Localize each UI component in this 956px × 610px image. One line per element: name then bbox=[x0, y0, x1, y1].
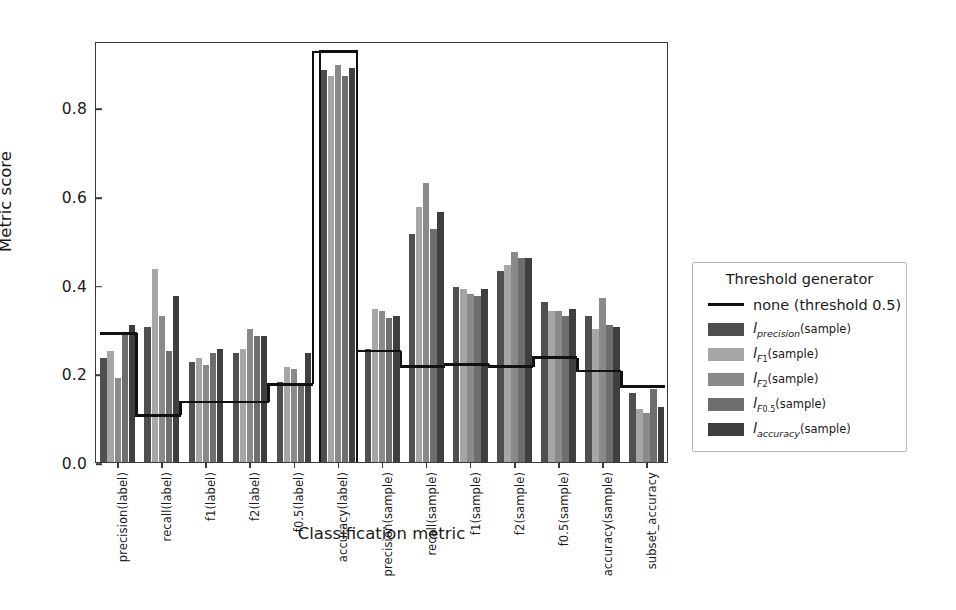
x-tick-label: accuracy(label) bbox=[336, 472, 350, 562]
bar bbox=[365, 349, 371, 462]
bar bbox=[416, 207, 422, 462]
legend-line-key bbox=[708, 303, 744, 306]
bar bbox=[240, 349, 246, 462]
y-tick-label: 0.0 bbox=[62, 455, 96, 473]
chart-legend: Threshold generator none (threshold 0.5)… bbox=[692, 262, 907, 452]
y-tick-label: 0.8 bbox=[62, 100, 96, 118]
x-tick-mark bbox=[470, 462, 472, 468]
legend-item: lF0.5(sample) bbox=[703, 392, 896, 417]
x-tick-mark bbox=[161, 462, 163, 468]
highlight-box bbox=[319, 50, 358, 462]
plot-area: 0.00.20.40.60.8 precision(label)recall(l… bbox=[95, 42, 668, 463]
threshold-line-connector bbox=[135, 333, 138, 415]
bars-layer bbox=[96, 43, 667, 462]
bar bbox=[173, 296, 179, 462]
y-tick-label: 0.6 bbox=[62, 189, 96, 207]
threshold-line-segment bbox=[628, 385, 665, 388]
bar bbox=[437, 212, 443, 462]
legend-item: lprecision(sample) bbox=[703, 317, 896, 342]
legend-item-label: lF1(sample) bbox=[749, 345, 818, 364]
bar bbox=[203, 365, 209, 462]
bar bbox=[525, 258, 531, 462]
legend-item-label: none (threshold 0.5) bbox=[749, 297, 901, 313]
bar bbox=[129, 325, 135, 462]
threshold-line-segment bbox=[408, 365, 445, 368]
legend-rows: none (threshold 0.5)lprecision(sample)lF… bbox=[703, 292, 896, 442]
y-tick-label: 0.2 bbox=[62, 366, 96, 384]
x-tick-mark bbox=[249, 462, 251, 468]
x-tick-mark bbox=[514, 462, 516, 468]
threshold-line-segment bbox=[276, 383, 313, 386]
bar bbox=[541, 302, 547, 462]
threshold-line-connector bbox=[267, 384, 270, 402]
legend-color-swatch bbox=[708, 423, 744, 436]
bar bbox=[393, 316, 399, 462]
bar bbox=[254, 336, 260, 462]
threshold-line-segment bbox=[232, 401, 269, 404]
bar bbox=[599, 298, 605, 462]
bar bbox=[562, 316, 568, 462]
threshold-line-segment bbox=[452, 363, 489, 366]
bar bbox=[650, 389, 656, 462]
bar bbox=[159, 316, 165, 462]
x-tick-mark bbox=[294, 462, 296, 468]
threshold-line-connector bbox=[532, 358, 535, 367]
bar-chart-figure: Metric score 0.00.20.40.60.8 precision(l… bbox=[0, 0, 956, 610]
threshold-line-connector bbox=[179, 402, 182, 415]
bar bbox=[152, 269, 158, 462]
bar bbox=[107, 351, 113, 462]
bar bbox=[217, 349, 223, 462]
threshold-line-segment bbox=[496, 365, 533, 368]
bar bbox=[122, 333, 128, 462]
y-axis-label: Metric score bbox=[0, 151, 15, 252]
y-tick-label: 0.4 bbox=[62, 278, 96, 296]
x-tick-mark bbox=[646, 462, 648, 468]
legend-key-swatch bbox=[703, 373, 749, 386]
legend-item-label: lF2(sample) bbox=[749, 370, 818, 389]
bar bbox=[518, 258, 524, 462]
legend-item-label: lprecision(sample) bbox=[749, 320, 851, 339]
bar bbox=[247, 329, 253, 462]
bar bbox=[423, 183, 429, 462]
threshold-line-connector bbox=[400, 351, 403, 367]
legend-item-label: laccuracy(sample) bbox=[749, 420, 851, 439]
x-tick-mark bbox=[205, 462, 207, 468]
legend-color-swatch bbox=[708, 323, 744, 336]
bar bbox=[210, 353, 216, 462]
bar bbox=[606, 325, 612, 462]
bar bbox=[430, 229, 436, 462]
bar bbox=[613, 327, 619, 462]
bar bbox=[372, 309, 378, 462]
bar bbox=[658, 407, 664, 462]
x-tick-label: precision(label) bbox=[116, 472, 130, 562]
threshold-line-segment bbox=[188, 401, 225, 404]
threshold-line-segment bbox=[144, 414, 181, 417]
legend-key-swatch bbox=[703, 348, 749, 361]
bar bbox=[569, 309, 575, 462]
threshold-line-segment bbox=[584, 370, 621, 373]
bar bbox=[189, 362, 195, 462]
bar bbox=[196, 358, 202, 462]
x-tick-mark bbox=[338, 462, 340, 468]
bar bbox=[100, 358, 106, 462]
legend-color-swatch bbox=[708, 373, 744, 386]
legend-item: lF2(sample) bbox=[703, 367, 896, 392]
bar bbox=[305, 353, 311, 462]
legend-item: laccuracy(sample) bbox=[703, 417, 896, 442]
x-tick-mark bbox=[558, 462, 560, 468]
bar bbox=[115, 378, 121, 462]
bar bbox=[592, 329, 598, 462]
bar bbox=[379, 311, 385, 462]
bar bbox=[636, 409, 642, 462]
bar bbox=[643, 413, 649, 462]
legend-color-swatch bbox=[708, 348, 744, 361]
bar bbox=[460, 289, 466, 462]
bar bbox=[481, 289, 487, 462]
bar bbox=[284, 367, 290, 462]
bar bbox=[298, 384, 304, 462]
threshold-line-connector bbox=[620, 371, 623, 387]
legend-title: Threshold generator bbox=[703, 271, 896, 287]
threshold-line-segment bbox=[364, 350, 401, 353]
x-tick-label: f1(label) bbox=[204, 472, 218, 521]
threshold-line-connector bbox=[312, 52, 315, 384]
